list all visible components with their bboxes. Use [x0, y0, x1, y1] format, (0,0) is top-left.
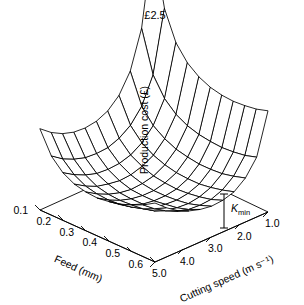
mesh-surface — [40, 0, 268, 211]
speed-tick-label-4: 1.0 — [265, 217, 280, 229]
z-axis-title: Production cost (£) — [138, 86, 150, 174]
speed-tick-label-0: 5.0 — [152, 267, 167, 279]
surface-plot-canvas: £2.5 Production cost (£) 0.1 0.2 0.3 0.4… — [0, 0, 304, 305]
feed-tick-label-2: 0.3 — [59, 226, 74, 238]
k-min-label: Kmin — [231, 202, 250, 217]
surface-plot-figure: £2.5 Production cost (£) 0.1 0.2 0.3 0.4… — [0, 0, 304, 305]
feed-tick-label-5: 0.6 — [128, 258, 143, 270]
speed-tick-label-1: 4.0 — [180, 255, 195, 267]
feed-tick-labels: 0.1 0.2 0.3 0.4 0.5 0.6 — [13, 204, 143, 270]
feed-tick-0 — [35, 205, 40, 210]
feed-tick-label-0: 0.1 — [13, 204, 28, 216]
speed-tick-label-2: 3.0 — [208, 242, 223, 254]
speed-tick-labels: 5.0 4.0 3.0 2.0 1.0 — [152, 217, 280, 279]
feed-axis-title: Feed (mm) — [53, 252, 105, 284]
base-plane-front-edges — [40, 210, 268, 262]
k-min-label-subscript: min — [238, 208, 250, 217]
top-value-label: £2.5 — [144, 9, 165, 21]
feed-tick-label-1: 0.2 — [36, 215, 51, 227]
feed-tick-label-4: 0.5 — [105, 247, 120, 259]
feed-tick-label-3: 0.4 — [82, 236, 97, 248]
speed-tick-label-3: 2.0 — [237, 230, 252, 242]
